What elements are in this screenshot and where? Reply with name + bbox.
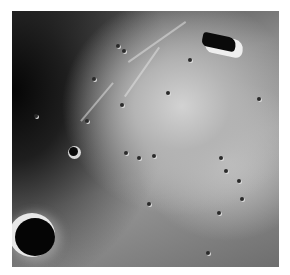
small-crater — [206, 251, 210, 255]
surface-rille — [124, 47, 160, 97]
small-crater — [34, 114, 38, 118]
small-crater — [85, 119, 89, 123]
lunar-surface-photo — [12, 11, 279, 267]
small-crater — [240, 197, 244, 201]
small-crater — [147, 202, 151, 206]
small-crater — [257, 97, 261, 101]
surface-rille — [80, 82, 114, 122]
small-crater — [124, 151, 128, 155]
small-crater — [92, 77, 96, 81]
large-crater — [15, 218, 55, 256]
small-crater — [224, 169, 228, 173]
small-crater — [188, 58, 192, 62]
small-crater — [166, 91, 170, 95]
small-crater — [152, 154, 156, 158]
small-crater — [122, 49, 126, 53]
small-crater — [219, 156, 223, 160]
shadowed-peak — [201, 32, 237, 53]
surface-rille — [128, 21, 186, 63]
small-crater — [137, 156, 141, 160]
small-crater — [120, 103, 124, 107]
mid-crater — [69, 147, 78, 156]
small-crater — [217, 211, 221, 215]
small-crater — [116, 44, 120, 48]
small-crater — [237, 179, 241, 183]
